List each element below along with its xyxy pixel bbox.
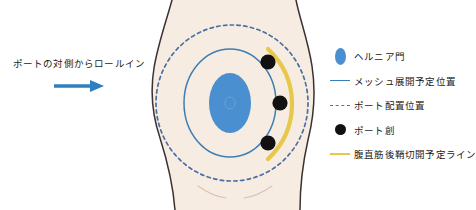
hernia-defect-icon [326, 48, 354, 65]
legend-item-hernia-defect: ヘルニア門 [326, 44, 476, 69]
port-site-upper [260, 54, 275, 69]
roll-in-arrow-wrap [4, 78, 154, 94]
abdomen-svg [140, 0, 325, 210]
legend-item-mesh-line: メッシュ展開予定位置 [326, 69, 476, 94]
legend-label-port-site: ポート創 [354, 123, 395, 137]
legend-item-port-circle: ポート配置位置 [326, 93, 476, 118]
sheath-line-icon [326, 153, 354, 155]
arrow-right-icon [52, 78, 106, 94]
legend-item-sheath-line: 腹直筋後鞘切開予定ライン [326, 142, 476, 167]
roll-in-annotation: ポートの対側からロールイン [4, 58, 154, 94]
legend: ヘルニア門 メッシュ展開予定位置 ポート配置位置 ポート創 腹直筋後鞘切開予定ラ [326, 44, 476, 167]
port-site-lower [260, 135, 275, 150]
legend-label-sheath-line: 腹直筋後鞘切開予定ライン [354, 147, 476, 161]
port-site-middle [272, 95, 287, 110]
hernia-port-placement-diagram: ポートの対側からロールイン [0, 0, 476, 210]
abdomen-illustration [140, 0, 325, 210]
port-circle-icon [326, 105, 354, 106]
mesh-line-icon [326, 80, 354, 81]
legend-label-port-circle: ポート配置位置 [354, 98, 425, 112]
legend-label-mesh-line: メッシュ展開予定位置 [354, 74, 456, 88]
legend-label-hernia-defect: ヘルニア門 [354, 49, 405, 63]
legend-item-port-site: ポート創 [326, 118, 476, 143]
roll-in-annotation-label: ポートの対側からロールイン [4, 58, 154, 69]
port-site-icon [326, 124, 354, 135]
hernia-defect [209, 73, 251, 133]
